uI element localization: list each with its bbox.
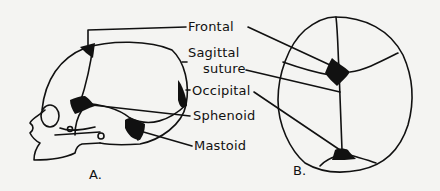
posterior-fontanelle-b <box>332 149 356 161</box>
occipital-fontanelle-a <box>178 80 187 108</box>
label-suture: suture <box>203 62 246 76</box>
panel-b-label: B. <box>293 164 306 178</box>
label-occipital: Occipital <box>192 84 250 98</box>
panel-a-label: A. <box>89 168 102 182</box>
sphenoid-fontanelle-a <box>70 96 95 114</box>
label-sagittal: Sagittal <box>188 46 239 60</box>
skull-superior-outline <box>278 17 412 172</box>
anterior-fontanelle-a <box>80 43 95 58</box>
anterior-fontanelle-b <box>325 58 350 86</box>
label-frontal: Frontal <box>188 20 234 34</box>
fontanelle-diagram: Frontal Sagittal suture Occipital Spheno… <box>0 0 440 191</box>
label-sphenoid: Sphenoid <box>193 109 255 123</box>
label-mastoid: Mastoid <box>194 139 246 153</box>
